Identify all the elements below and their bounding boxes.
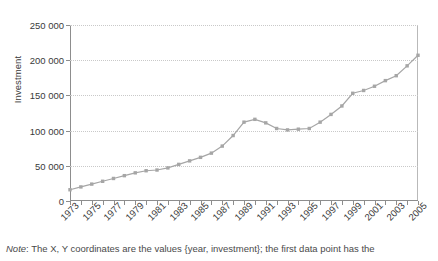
data-point-marker (79, 185, 82, 188)
data-point-marker (242, 120, 245, 123)
y-tick-label: 250 000 (8, 20, 64, 31)
data-point-marker (144, 169, 147, 172)
y-tick-label: 150 000 (8, 90, 64, 101)
data-point-marker (123, 174, 126, 177)
y-axis-tick-labels: 050 000100 000150 000200 000250 000 (8, 0, 64, 238)
x-tick-label: 1985 (189, 200, 212, 223)
x-tick-mark (211, 201, 212, 205)
data-point-marker (90, 182, 93, 185)
data-point-marker (101, 180, 104, 183)
x-tick-label: 2001 (363, 200, 386, 223)
x-tick-mark (146, 201, 147, 205)
x-tick-label: 1995 (297, 200, 320, 223)
x-tick-mark (385, 201, 386, 205)
data-point-marker (275, 127, 278, 130)
data-point-marker (340, 104, 343, 107)
x-tick-label: 2003 (384, 200, 407, 223)
data-point-marker (329, 113, 332, 116)
data-point-marker (308, 127, 311, 130)
x-tick-label: 2005 (406, 200, 429, 223)
data-point-marker (405, 64, 408, 67)
y-tick-label: 100 000 (8, 125, 64, 136)
data-point-marker (210, 151, 213, 154)
data-point-marker (297, 127, 300, 130)
x-tick-label: 1979 (123, 200, 146, 223)
note-label: Note (6, 243, 26, 254)
y-tick-label: 200 000 (8, 55, 64, 66)
data-point-marker (395, 74, 398, 77)
note-body: : The X, Y coordinates are the values {y… (26, 243, 375, 254)
data-point-marker (362, 89, 365, 92)
x-tick-mark (81, 201, 82, 205)
y-tick-label: 50 000 (8, 160, 64, 171)
chart-plot-area: Investment 050 000100 000150 000200 0002… (0, 0, 438, 238)
y-tick-label: 0 (8, 196, 64, 207)
x-tick-label: 1981 (145, 200, 168, 223)
x-tick-mark (124, 201, 125, 205)
x-tick-mark (320, 201, 321, 205)
data-point-marker (134, 171, 137, 174)
x-tick-label: 1989 (232, 200, 255, 223)
x-tick-mark (168, 201, 169, 205)
x-tick-mark (407, 201, 408, 205)
data-point-marker (231, 134, 234, 137)
x-tick-label: 1987 (210, 200, 233, 223)
data-point-marker (416, 54, 419, 57)
data-point-marker (318, 120, 321, 123)
data-point-marker (373, 85, 376, 88)
x-tick-mark (103, 201, 104, 205)
x-tick-mark (233, 201, 234, 205)
x-tick-label: 1997 (319, 200, 342, 223)
plot-canvas: 1973197519771979198119831985198719891991… (70, 25, 418, 201)
x-tick-mark (277, 201, 278, 205)
figure-note: Note: The X, Y coordinates are the value… (6, 242, 434, 255)
x-tick-label: 1993 (276, 200, 299, 223)
data-point-marker (253, 118, 256, 121)
investment-line-chart-figure: Investment 050 000100 000150 000200 0002… (0, 0, 438, 261)
data-point-marker (188, 159, 191, 162)
x-tick-label: 1977 (102, 200, 125, 223)
x-tick-mark (255, 201, 256, 205)
data-point-marker (221, 144, 224, 147)
data-point-marker (264, 121, 267, 124)
data-point-marker (155, 168, 158, 171)
x-tick-label: 1975 (80, 200, 103, 223)
x-tick-mark (190, 201, 191, 205)
data-point-marker (286, 128, 289, 131)
data-point-marker (112, 177, 115, 180)
investment-series (70, 25, 418, 201)
x-tick-label: 1983 (167, 200, 190, 223)
data-point-marker (68, 188, 71, 191)
data-point-marker (384, 79, 387, 82)
data-point-marker (199, 156, 202, 159)
x-tick-mark (364, 201, 365, 205)
data-point-marker (177, 163, 180, 166)
x-tick-label: 1991 (254, 200, 277, 223)
data-point-marker (351, 92, 354, 95)
x-tick-mark (342, 201, 343, 205)
x-tick-label: 1999 (341, 200, 364, 223)
data-point-marker (166, 166, 169, 169)
x-tick-mark (298, 201, 299, 205)
